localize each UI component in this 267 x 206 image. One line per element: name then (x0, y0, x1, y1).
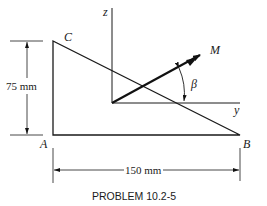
point-b-label: B (243, 137, 251, 151)
point-a-label: A (39, 137, 48, 151)
z-axis-label: z (102, 5, 108, 19)
double-arrowhead (186, 58, 197, 66)
problem-diagram: C A B z y M β 75 mm 150 mm PROBLEM 10.2-… (0, 0, 267, 206)
angle-beta-label: β (190, 77, 197, 91)
height-dimension-label: 75 mm (6, 80, 37, 92)
angle-arc (179, 68, 184, 101)
y-axis-label: y (233, 103, 240, 117)
width-dimension-label: 150 mm (125, 164, 162, 176)
moment-vector (112, 55, 200, 103)
problem-caption: PROBLEM 10.2-5 (92, 190, 176, 202)
point-c-label: C (64, 30, 73, 44)
moment-label: M (209, 43, 221, 57)
